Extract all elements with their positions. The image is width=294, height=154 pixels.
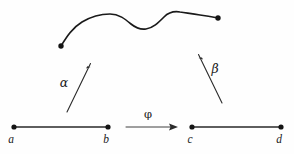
alpha-arrow-head-icon <box>86 58 92 69</box>
alpha-arrow-shaft <box>67 64 91 113</box>
point-c-label: c <box>187 133 192 145</box>
point-a-label: a <box>8 133 14 145</box>
point-d-label: d <box>276 133 282 145</box>
beta-label: β <box>210 61 218 76</box>
curve-endpoint-left-dot <box>58 43 63 48</box>
phi-label: φ <box>144 107 152 121</box>
wavy-curve-path <box>61 12 218 46</box>
alpha-label: α <box>60 75 69 90</box>
wavy-curve-group <box>58 12 220 49</box>
math-figure-canvas: α β a b φ c d <box>0 0 294 154</box>
diagram-svg: α β a b φ c d <box>0 0 294 154</box>
point-d-dot <box>278 124 283 129</box>
point-b-label: b <box>103 133 109 145</box>
segment-cd-group: c d <box>187 124 283 145</box>
alpha-arrow-group: α <box>60 58 92 112</box>
beta-arrow-group: β <box>197 49 222 103</box>
beta-arrow-head-icon <box>197 49 203 60</box>
point-b-dot <box>105 124 110 129</box>
point-c-dot <box>189 124 194 129</box>
segment-ab-group: a b <box>8 124 110 145</box>
curve-endpoint-right-dot <box>215 15 220 20</box>
point-a-dot <box>11 124 16 129</box>
phi-arrow-group: φ <box>126 107 178 130</box>
